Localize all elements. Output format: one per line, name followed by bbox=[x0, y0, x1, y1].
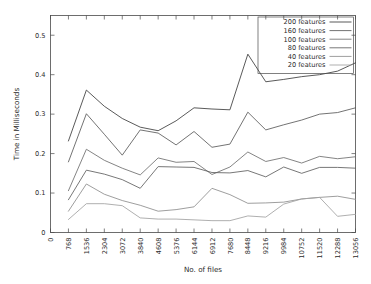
y-tick-label: 0 bbox=[41, 229, 45, 237]
line-chart: 00.10.20.30.40.5076815362304307238404608… bbox=[0, 0, 371, 284]
y-tick-label: 0.1 bbox=[35, 189, 46, 197]
series-line-3 bbox=[68, 167, 355, 200]
y-tick-label: 0.5 bbox=[35, 32, 46, 40]
series-line-4 bbox=[68, 184, 355, 211]
x-axis-title: No. of files bbox=[184, 265, 222, 274]
x-tick-label: 11520 bbox=[316, 238, 324, 259]
legend-label-4: 40 features bbox=[288, 53, 326, 61]
x-tick-label: 10752 bbox=[298, 238, 306, 259]
legend-label-1: 160 features bbox=[284, 27, 326, 35]
x-tick-label: 4608 bbox=[155, 238, 163, 255]
x-tick-label: 0 bbox=[47, 238, 55, 242]
x-tick-label: 6144 bbox=[191, 238, 199, 255]
y-tick-label: 0.2 bbox=[35, 150, 46, 158]
y-axis-title: Time in Milliseconds bbox=[12, 88, 21, 162]
x-tick-label: 7680 bbox=[227, 238, 235, 255]
x-tick-label: 2304 bbox=[101, 238, 109, 255]
x-tick-label: 3072 bbox=[119, 238, 127, 255]
series-line-5 bbox=[68, 197, 355, 220]
legend-label-2: 100 features bbox=[284, 36, 326, 44]
x-tick-label: 5376 bbox=[173, 238, 181, 255]
legend-label-3: 80 features bbox=[288, 44, 326, 52]
y-tick-label: 0.3 bbox=[35, 110, 46, 118]
series-line-1 bbox=[68, 108, 355, 162]
x-tick-label: 13056 bbox=[352, 238, 360, 259]
chart-screenshot: 00.10.20.30.40.5076815362304307238404608… bbox=[0, 0, 371, 284]
y-tick-label: 0.4 bbox=[35, 71, 46, 79]
legend-label-0: 200 features bbox=[284, 18, 326, 26]
x-tick-label: 8448 bbox=[244, 238, 252, 255]
x-tick-label: 1536 bbox=[83, 238, 91, 255]
x-tick-label: 6912 bbox=[209, 238, 217, 255]
x-tick-label: 12288 bbox=[334, 238, 342, 259]
x-tick-label: 3840 bbox=[137, 238, 145, 255]
x-tick-label: 768 bbox=[65, 238, 73, 251]
x-tick-label: 9984 bbox=[280, 238, 288, 255]
x-tick-label: 9216 bbox=[262, 238, 270, 255]
legend-label-5: 20 features bbox=[288, 61, 326, 69]
